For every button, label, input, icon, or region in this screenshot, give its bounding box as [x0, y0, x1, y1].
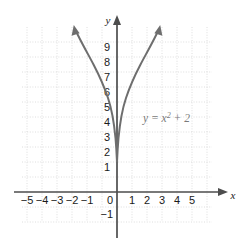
x-tick-labels: −5 −4 −3 −2 −1 0 1 2 3 4 5 — [21, 194, 195, 206]
x-tick-label: 5 — [189, 194, 195, 206]
y-tick-label: 3 — [104, 131, 110, 143]
y-tick-label: 7 — [104, 71, 110, 83]
x-tick-label: 4 — [174, 194, 180, 206]
x-tick-label: −4 — [36, 194, 49, 206]
x-tick-label: −2 — [66, 194, 79, 206]
x-tick-label: −3 — [51, 194, 64, 206]
coordinate-plane-svg: y x −5 −4 −3 −2 −1 0 1 2 3 4 5 9 8 7 6 5… — [0, 0, 245, 245]
y-tick-label: 9 — [104, 41, 110, 53]
equation-main: y = x — [142, 112, 168, 125]
x-axis-label: x — [230, 189, 236, 201]
y-axis-label: y — [105, 14, 111, 26]
origin-label: 0 — [107, 194, 113, 206]
x-tick-label: 1 — [129, 194, 135, 206]
y-tick-label: 2 — [104, 146, 110, 158]
equation-tail: + 2 — [171, 112, 191, 124]
y-axis-arrow-icon — [113, 15, 121, 25]
y-tick-label: 1 — [104, 161, 110, 173]
y-tick-label: 4 — [104, 116, 110, 128]
x-tick-label: −1 — [81, 194, 94, 206]
x-tick-label: 2 — [144, 194, 150, 206]
graph-figure: y x −5 −4 −3 −2 −1 0 1 2 3 4 5 9 8 7 6 5… — [0, 0, 245, 245]
y-tick-label: 8 — [104, 56, 110, 68]
equation-annotation: y = x2 + 2 — [142, 111, 190, 125]
x-axis-arrow-icon — [218, 188, 228, 196]
x-tick-label: 3 — [159, 194, 165, 206]
y-tick-label: −1 — [100, 208, 113, 220]
x-tick-label: −5 — [21, 194, 34, 206]
